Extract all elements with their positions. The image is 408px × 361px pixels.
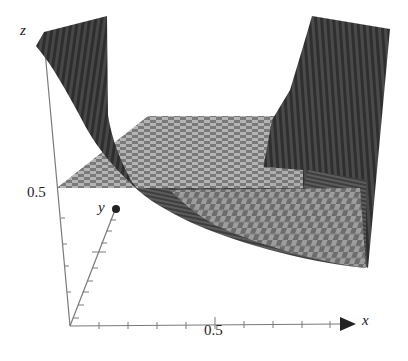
surface-front-face [170, 188, 366, 268]
y-axis-end-dot [112, 205, 120, 213]
x-axis-tick-label: 0.5 [204, 322, 223, 339]
z-axis-label: z [20, 22, 26, 39]
z-axis-tick-label: 0.5 [27, 184, 46, 201]
surface-plot [0, 0, 408, 361]
y-axis [70, 205, 120, 326]
x-axis-arrow-icon [340, 317, 356, 331]
x-axis-label: x [362, 312, 369, 329]
y-axis-label: y [98, 199, 105, 216]
